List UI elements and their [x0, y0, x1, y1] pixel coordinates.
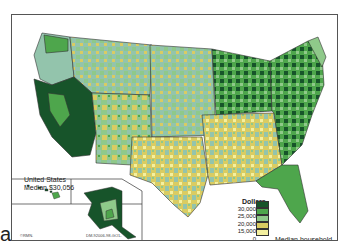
legend-swatches	[256, 201, 269, 236]
legend-swatch-15000-20000	[256, 222, 269, 229]
legend-swatch-0-15000	[256, 229, 269, 236]
alaska-inset	[84, 187, 136, 239]
map-code-text: DM-92006-98-GO1-	[86, 233, 122, 238]
map-frame: United States Median $30,056 ©RMN. DM-92…	[11, 14, 338, 241]
copyright-text: ©RMN.	[20, 233, 33, 238]
panel-label: a	[0, 224, 11, 244]
us-median-label: United States Median $30,056	[24, 176, 74, 192]
legend-ticks: 30,000 25,000 20,000 15,000 0	[226, 206, 256, 241]
legend-swatch-20000-25000	[256, 215, 269, 222]
legend: Dollars 30,000 25,000 20,000 15,000 0 Me…	[222, 198, 338, 241]
legend-swatch-25000-30000	[256, 208, 269, 215]
legend-swatch-over-30000	[256, 201, 269, 208]
contiguous-us	[34, 33, 326, 223]
legend-caption: Median household income, 1990	[275, 236, 338, 241]
